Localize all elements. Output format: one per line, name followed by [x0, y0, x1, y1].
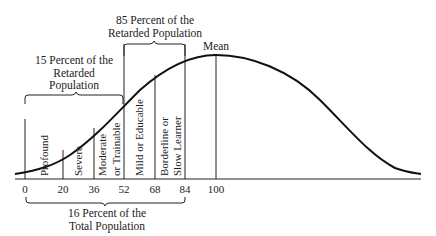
label-15-percent-line3: Population	[49, 79, 99, 92]
category-mild: Mild or Educable	[133, 99, 145, 176]
label-85-percent-line1: 85 Percent of the	[116, 14, 194, 26]
category-borderline-line1: Borderline or	[158, 117, 170, 176]
mean-label: Mean	[203, 40, 229, 52]
bracket-16-percent	[26, 197, 185, 206]
label-85-percent-line2: Retarded Population	[108, 27, 202, 40]
iq-distribution-diagram: 0 20 36 52 68 84 100 Profound Severe Mod…	[0, 0, 436, 236]
category-labels: Profound Severe Moderate or Trainable Mi…	[38, 99, 183, 176]
category-borderline-line2: Slow Learner	[171, 116, 183, 176]
svg-text:52: 52	[119, 183, 130, 195]
category-severe: Severe	[72, 146, 84, 176]
svg-text:0: 0	[22, 183, 28, 195]
label-15-percent-line1: 15 Percent of the	[35, 54, 113, 66]
bracket-15-percent	[25, 92, 123, 104]
label-15-percent-line2: Retarded	[53, 67, 95, 79]
category-moderate-line2: or Trainable	[110, 122, 122, 176]
axis-tick-labels: 0 20 36 52 68 84 100	[22, 183, 225, 195]
svg-text:68: 68	[150, 183, 162, 195]
category-moderate-line1: Moderate	[96, 134, 108, 176]
label-16-percent-line1: 16 Percent of the	[68, 207, 146, 219]
label-16-percent-line2: Total Population	[69, 220, 145, 233]
bracket-85-percent	[124, 41, 185, 56]
svg-text:84: 84	[180, 183, 192, 195]
svg-text:20: 20	[58, 183, 70, 195]
svg-text:100: 100	[208, 183, 225, 195]
svg-text:36: 36	[89, 183, 101, 195]
category-profound: Profound	[38, 135, 50, 176]
